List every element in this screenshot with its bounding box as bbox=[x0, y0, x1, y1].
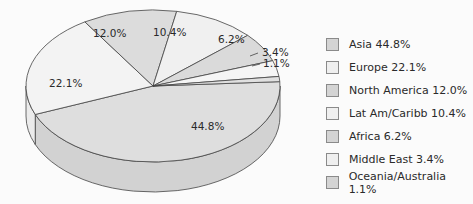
legend-label: Asia 44.8% bbox=[349, 38, 411, 51]
slice-label: 6.2% bbox=[218, 33, 245, 45]
slice-label: 22.1% bbox=[49, 77, 82, 89]
legend-item-oceania-australia: Oceania/Australia 1.1% bbox=[326, 171, 473, 194]
slice-label: 1.1% bbox=[263, 57, 290, 69]
legend-label: Lat Am/Caribb 10.4% bbox=[349, 107, 466, 120]
legend-item-africa: Africa 6.2% bbox=[326, 125, 473, 148]
slice-label: 12.0% bbox=[93, 27, 126, 39]
legend-swatch bbox=[326, 153, 339, 166]
legend-swatch bbox=[326, 107, 339, 120]
legend-swatch bbox=[326, 61, 339, 74]
legend-item-middle-east: Middle East 3.4% bbox=[326, 148, 473, 171]
legend-label: Oceania/Australia 1.1% bbox=[349, 170, 473, 196]
legend-swatch bbox=[326, 130, 339, 143]
legend-item-north-america: North America 12.0% bbox=[326, 79, 473, 102]
legend-swatch bbox=[326, 38, 339, 51]
slice-label: 10.4% bbox=[153, 26, 186, 38]
legend-item-europe: Europe 22.1% bbox=[326, 56, 473, 79]
legend: Asia 44.8% Europe 22.1% North America 12… bbox=[326, 33, 473, 194]
slice-label: 44.8% bbox=[191, 120, 224, 132]
legend-swatch bbox=[326, 176, 339, 189]
legend-label: Africa 6.2% bbox=[349, 130, 412, 143]
pie-chart: 44.8%22.1%12.0%10.4%6.2%3.4%1.1% bbox=[0, 0, 310, 204]
legend-item-asia: Asia 44.8% bbox=[326, 33, 473, 56]
legend-label: Middle East 3.4% bbox=[349, 153, 444, 166]
legend-label: North America 12.0% bbox=[349, 84, 467, 97]
legend-swatch bbox=[326, 84, 339, 97]
legend-item-lat-am-caribb: Lat Am/Caribb 10.4% bbox=[326, 102, 473, 125]
legend-label: Europe 22.1% bbox=[349, 61, 426, 74]
